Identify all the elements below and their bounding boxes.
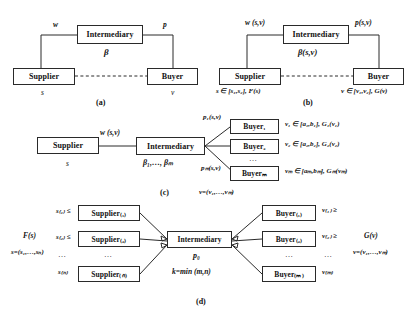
panel-a-beta-label: β [104, 47, 109, 57]
panel-d-buyer-m-box: Buyer₍ₘ₎ [262, 266, 316, 282]
panel-a-intermediary-label: Intermediary [87, 30, 134, 39]
panel-a-supplier-label: Supplier [29, 72, 59, 81]
panel-c-v-vector: v=(v₁,…,vₘ) [199, 188, 234, 196]
panel-c-buyers-ellipsis: … [249, 154, 257, 163]
panel-d-supplier-n-label: Supplier₍ₙ₎ [91, 270, 127, 279]
panel-c-caption: (c) [160, 188, 169, 197]
panel-c-supplier-label: Supplier [53, 141, 83, 150]
panel-c-buyer-1-label: Buyer₁ [243, 122, 265, 131]
panel-d-G-label: G(v) [364, 231, 378, 240]
panel-b-supplier-label: Supplier [235, 72, 265, 81]
panel-b-p-label: p(s,v) [355, 18, 372, 27]
panel-d-F-label: F(s) [23, 231, 36, 240]
panel-a-supplier-box: Supplier [13, 68, 75, 85]
panel-a-caption: (a) [96, 98, 105, 107]
panel-b-caption: (b) [303, 98, 313, 107]
panel-c-buyer-m-distribution: vₘ ∈ [aₘ,bₘ], Gₘ(vₘ) [285, 167, 347, 175]
panel-d-supplier-1-box: Supplier₍₁₎ [78, 205, 140, 221]
panel-a-buyer-box: Buyer [147, 68, 198, 85]
panel-a-w-label: w [53, 20, 58, 29]
panel-d-buyer-2-box: Buyer₍₂₎ [262, 231, 316, 247]
panel-d-p0-label: p₀ [193, 251, 200, 260]
panel-d-buyer-value-2: v₍₂₎ ≥ [322, 232, 337, 240]
panel-d-buyer-1-label: Buyer₍₁₎ [276, 209, 303, 218]
panel-c-s-label: s [66, 159, 69, 168]
panel-c-buyer-m-label: Buyerₘ [242, 169, 267, 178]
panel-d-caption: (d) [196, 297, 206, 306]
panel-d-supplier-cost-n: s₍ₙ₎ [58, 268, 68, 276]
panel-d-v-vector: v=(v₁,…,vₘ) [353, 248, 388, 256]
panel-c-buyer-1-distribution: v₁ ∈ [a₁,b₁], G₁(v₁) [285, 120, 340, 128]
panel-b-beta-label: β(s,v) [298, 47, 317, 57]
panel-b-intermediary-box: Intermediary [283, 25, 349, 44]
figure-canvas: Intermediary Supplier Buyer w p β s v (a… [0, 0, 412, 314]
panel-d-buyer-m-label: Buyer₍ₘ₎ [274, 270, 303, 279]
panel-d-buyer-value-1: v₍₁₎ ≥ [322, 206, 337, 214]
panel-d-buyers-ellipsis: … [285, 250, 293, 259]
panel-c-buyer-2-box: Buyer₂ [230, 139, 279, 154]
panel-d-buyer-2-label: Buyer₍₂₎ [276, 235, 303, 244]
panel-d-intermediary-box: Intermediary [167, 231, 232, 248]
panel-d-intermediary-label: Intermediary [177, 235, 221, 244]
panel-b-w-label: w (s,v) [245, 18, 265, 27]
panel-d-supplier-left-ellipsis: … [58, 250, 66, 259]
panel-d-supplier-n-box: Supplier₍ₙ₎ [78, 266, 140, 282]
panel-a-buyer-label: Buyer [162, 72, 183, 81]
panel-c-pm-label: pₘ(s,v) [201, 164, 221, 172]
panel-d-s-vector: s=(s₁,…,sₙ) [11, 248, 44, 256]
panel-d-supplier-2-label: Supplier₍₂₎ [92, 235, 127, 244]
panel-c-w-label: w (s,v) [100, 128, 120, 137]
panel-c-betas-label: β₁,…, βₘ [143, 158, 173, 167]
panel-d-supplier-1-label: Supplier₍₁₎ [92, 209, 127, 218]
panel-c-intermediary-label: Intermediary [147, 142, 194, 151]
panel-c-supplier-box: Supplier [37, 137, 99, 154]
panel-c-p1-label: p₁(s,v) [203, 113, 221, 121]
panel-b-supplier-distribution: s ∈ [s₁,s₂], F(s) [216, 87, 261, 95]
panel-d-suppliers-ellipsis: … [104, 250, 112, 259]
panel-c-buyer-1-box: Buyer₁ [230, 119, 279, 134]
panel-c-intermediary-box: Intermediary [136, 137, 205, 155]
panel-d-supplier-cost-2: s₍₂₎ ≤ [56, 233, 71, 241]
panel-d-supplier-2-box: Supplier₍₂₎ [78, 231, 140, 247]
panel-d-buyer-1-box: Buyer₍₁₎ [262, 205, 316, 221]
panel-d-k-label: k=min (m,n) [172, 267, 211, 276]
panel-d-supplier-cost-1: s₍₁₎ ≤ [56, 207, 71, 215]
panel-b-buyer-label: Buyer [368, 72, 389, 81]
panel-b-intermediary-label: Intermediary [293, 30, 340, 39]
panel-c-buyer-2-label: Buyer₂ [243, 142, 265, 151]
panel-d-buyer-right-ellipsis: … [324, 250, 332, 259]
panel-a-s-label: s [41, 88, 44, 97]
panel-b-buyer-distribution: v ∈ [v₁,v₂], G(v) [341, 87, 387, 95]
panel-c-buyer-2-distribution: v₂ ∈ [a₂,b₂], G₂(v₂) [285, 140, 340, 148]
panel-d-buyer-value-m: v₍ₘ₎ [322, 268, 333, 276]
panel-c-buyer-m-box: Buyerₘ [230, 166, 279, 181]
panel-b-buyer-box: Buyer [353, 68, 404, 85]
panel-a-p-label: p [163, 20, 167, 29]
panel-a-v-label: v [171, 88, 174, 97]
panel-b-supplier-box: Supplier [219, 68, 281, 85]
panel-a-intermediary-box: Intermediary [77, 25, 143, 44]
